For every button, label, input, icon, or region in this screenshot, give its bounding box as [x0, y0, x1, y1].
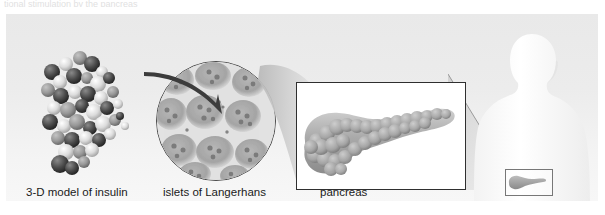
clipped-header-text: tional stimulation by the pancreas	[4, 0, 294, 7]
micrograph-circle-icon	[156, 61, 276, 181]
illustration-panel	[6, 14, 598, 201]
figure-root: tional stimulation by the pancreas	[0, 0, 605, 215]
pancreas-location-inset	[505, 169, 553, 196]
caption-insulin: 3-D model of insulin	[26, 186, 128, 198]
caption-pancreas: pancreas	[320, 186, 367, 198]
caption-islets: islets of Langerhans	[163, 186, 266, 198]
molecule-spacefill-icon	[30, 42, 140, 182]
pancreas-organ-icon	[296, 82, 466, 190]
